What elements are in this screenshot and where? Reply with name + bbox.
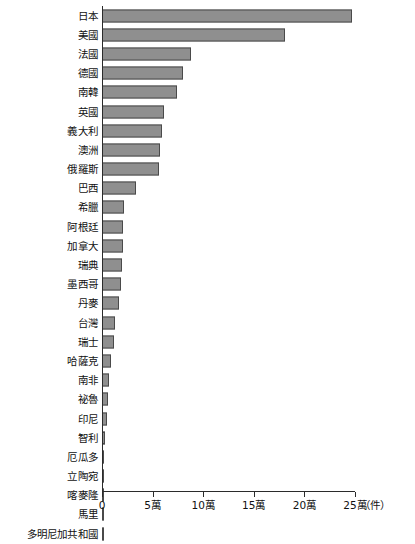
x-axis-tick-label: 0 xyxy=(99,499,106,512)
chart-row: 希臘 xyxy=(0,198,415,217)
bar-track xyxy=(102,163,159,176)
category-label: 澳洲 xyxy=(0,144,98,156)
bar xyxy=(102,239,123,252)
category-label: 台灣 xyxy=(0,317,98,329)
chart-row: 厄瓜多 xyxy=(0,447,415,466)
chart-row: 台灣 xyxy=(0,313,415,332)
category-label: 丹麥 xyxy=(0,297,98,309)
category-label: 美國 xyxy=(0,29,98,41)
category-label: 瑞士 xyxy=(0,336,98,348)
chart-row: 美國 xyxy=(0,25,415,44)
chart-row: 南非 xyxy=(0,371,415,390)
category-label: 南非 xyxy=(0,374,98,386)
bar xyxy=(102,28,285,41)
chart-row: 加拿大 xyxy=(0,236,415,255)
category-label: 印尼 xyxy=(0,413,98,425)
chart-row: 英國 xyxy=(0,102,415,121)
x-axis-tick xyxy=(203,492,204,497)
bar xyxy=(102,527,104,540)
bar-track xyxy=(102,124,162,137)
category-label: 厄瓜多 xyxy=(0,451,98,463)
category-label: 瑞典 xyxy=(0,259,98,271)
bar-track xyxy=(102,354,111,367)
x-axis-tick xyxy=(254,492,255,497)
bar xyxy=(102,297,119,310)
bar-track xyxy=(102,182,136,195)
bar-track xyxy=(102,259,122,272)
bar-track xyxy=(102,47,191,60)
chart-row: 澳洲 xyxy=(0,140,415,159)
category-label: 阿根廷 xyxy=(0,221,98,233)
chart-row: 智利 xyxy=(0,428,415,447)
bar-chart: 日本美國法國德國南韓英國義大利澳洲俄羅斯巴西希臘阿根廷加拿大瑞典墨西哥丹麥台灣瑞… xyxy=(0,0,415,544)
bar-track xyxy=(102,278,121,291)
bar xyxy=(102,259,122,272)
bar xyxy=(102,278,121,291)
chart-row: 南韓 xyxy=(0,83,415,102)
bar xyxy=(102,86,177,99)
x-axis-tick-label: 10萬 xyxy=(192,499,215,512)
bar xyxy=(102,163,159,176)
x-axis-tick-label: 15萬 xyxy=(242,499,265,512)
chart-row: 立陶宛 xyxy=(0,467,415,486)
bar-track xyxy=(102,316,115,329)
bar xyxy=(102,220,123,233)
bar-track xyxy=(102,201,124,214)
chart-row: 義大利 xyxy=(0,121,415,140)
bar-track xyxy=(102,297,119,310)
chart-row: 丹麥 xyxy=(0,294,415,313)
chart-row: 墨西哥 xyxy=(0,275,415,294)
bar-track xyxy=(102,220,123,233)
category-label: 立陶宛 xyxy=(0,470,98,482)
category-label: 馬里 xyxy=(0,508,98,520)
category-label: 祕魯 xyxy=(0,393,98,405)
chart-row: 瑞士 xyxy=(0,332,415,351)
category-label: 南韓 xyxy=(0,86,98,98)
category-label: 義大利 xyxy=(0,125,98,137)
chart-row: 哈薩克 xyxy=(0,351,415,370)
bar-track xyxy=(102,86,177,99)
x-axis-tick-label: 5萬 xyxy=(144,499,161,512)
chart-row: 多明尼加共和國 xyxy=(0,524,415,543)
chart-row: 法國 xyxy=(0,44,415,63)
chart-row: 俄羅斯 xyxy=(0,160,415,179)
bar xyxy=(102,354,111,367)
bar-track xyxy=(102,9,352,22)
bar xyxy=(102,67,183,80)
x-axis-line xyxy=(102,491,355,492)
bar-track xyxy=(102,67,183,80)
chart-row: 印尼 xyxy=(0,409,415,428)
x-axis-tick xyxy=(102,492,103,497)
bar xyxy=(102,143,160,156)
chart-row: 瑞典 xyxy=(0,255,415,274)
category-label: 多明尼加共和國 xyxy=(0,528,98,540)
category-label: 日本 xyxy=(0,10,98,22)
x-axis-tick xyxy=(355,492,356,497)
bar xyxy=(102,316,115,329)
bar xyxy=(102,9,352,22)
bar xyxy=(102,201,124,214)
bar xyxy=(102,105,164,118)
chart-row: 阿根廷 xyxy=(0,217,415,236)
bar-track xyxy=(102,239,123,252)
bar xyxy=(102,124,162,137)
bar xyxy=(102,182,136,195)
category-label: 哈薩克 xyxy=(0,355,98,367)
x-axis-tick xyxy=(153,492,154,497)
category-label: 俄羅斯 xyxy=(0,163,98,175)
category-label: 智利 xyxy=(0,432,98,444)
bar-track xyxy=(102,335,114,348)
category-label: 喀麥隆 xyxy=(0,489,98,501)
x-axis-tick xyxy=(304,492,305,497)
category-label: 德國 xyxy=(0,67,98,79)
chart-row: 祕魯 xyxy=(0,390,415,409)
category-label: 英國 xyxy=(0,106,98,118)
bar xyxy=(102,47,191,60)
bar-track xyxy=(102,105,164,118)
x-axis-tick-label: 20萬 xyxy=(293,499,316,512)
bar xyxy=(102,335,114,348)
category-label: 法國 xyxy=(0,48,98,60)
bar-track xyxy=(102,374,109,387)
bar-track xyxy=(102,527,104,540)
bar xyxy=(102,374,109,387)
